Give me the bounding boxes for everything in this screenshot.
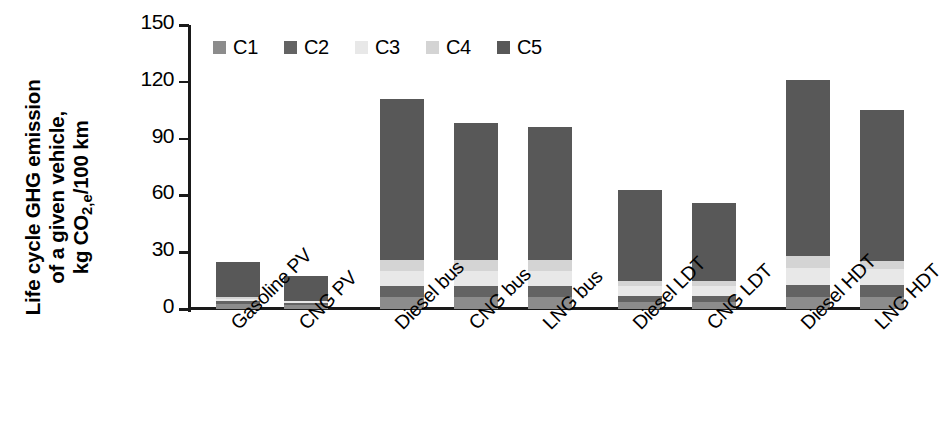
bar-segment-c5: [528, 127, 572, 260]
y-axis-unit-suffix: /100 km: [68, 121, 91, 195]
bar-segment-c5: [380, 99, 424, 260]
bar-segment-c4: [528, 260, 572, 271]
bar-segment-c3: [380, 271, 424, 286]
y-axis-title: Life cycle GHG emission of a given vehic…: [21, 42, 96, 352]
bar-segment-c4: [786, 256, 830, 268]
bar-segment-c5: [454, 123, 498, 259]
y-axis-title-line-2: of a given vehicle,: [44, 42, 68, 352]
y-axis-unit-subscript: 2,e: [78, 194, 94, 215]
bar-segment-c5: [786, 80, 830, 256]
y-axis-tick-label: 150: [118, 10, 174, 34]
bar-segment-c4: [380, 260, 424, 271]
bar-segment-c5: [618, 190, 662, 281]
y-axis-tick-label: 60: [118, 180, 174, 204]
y-axis-tick-label: 120: [118, 67, 174, 91]
y-axis-tick-label: 90: [118, 124, 174, 148]
y-axis-tick-label: 0: [118, 294, 174, 318]
bar-cng-bus[interactable]: [454, 123, 498, 309]
y-axis-title-line-3: kg CO2,e/100 km: [68, 42, 95, 352]
bar-diesel-hdt[interactable]: [786, 80, 830, 309]
y-axis-tick-label: 30: [118, 237, 174, 261]
bar-segment-c5: [860, 110, 904, 261]
bar-diesel-bus[interactable]: [380, 99, 424, 309]
bar-segment-c3: [786, 268, 830, 285]
y-axis-unit-prefix: kg CO: [68, 215, 91, 274]
bar-lng-bus[interactable]: [528, 127, 572, 309]
y-axis-title-line-1: Life cycle GHG emission: [21, 42, 45, 352]
